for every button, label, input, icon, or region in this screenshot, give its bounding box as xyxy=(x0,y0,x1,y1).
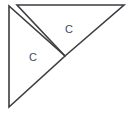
geometry-figure: C C xyxy=(0,0,131,115)
triangles-diagram xyxy=(0,0,131,115)
triangle-label-c-upper: C xyxy=(65,24,73,35)
lower-left-triangle xyxy=(9,6,65,107)
triangle-label-c-lower: C xyxy=(29,52,37,63)
